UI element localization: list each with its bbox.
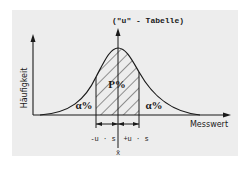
- x-axis-arrow-icon: [223, 113, 231, 118]
- mean-arrow-icon: [116, 28, 121, 36]
- y-axis: [31, 34, 36, 115]
- lower-bound-label: -u · s: [90, 135, 115, 143]
- diagram-title: ("u" - Tabelle): [112, 16, 184, 25]
- right-tail-label: α%: [145, 99, 162, 111]
- mean-label: x̄: [116, 149, 120, 157]
- normal-distribution-diagram: ("u" - Tabelle) Häufigkeit Messwert P% α…: [0, 0, 247, 169]
- y-axis-label: Häufigkeit: [20, 68, 29, 109]
- left-tail-label: α%: [75, 99, 92, 111]
- y-axis-arrow-icon: [31, 34, 36, 42]
- upper-bound-label: +u · s: [123, 135, 148, 143]
- center-area-label: P%: [108, 78, 126, 90]
- x-axis-label: Messwert: [190, 120, 228, 129]
